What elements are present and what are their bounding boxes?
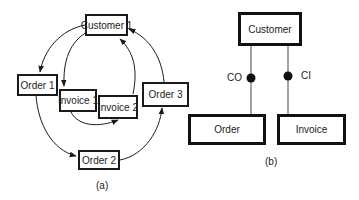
node-invoice-1: Invoice 1 xyxy=(59,89,97,112)
node-customer-1: Customer 1 xyxy=(85,14,128,36)
relation-label-co: CO xyxy=(227,72,242,83)
node-invoice: Invoice xyxy=(277,114,346,145)
edge-invoice2-customer1 xyxy=(120,39,135,94)
edge-customer1-invoice1 xyxy=(64,32,87,86)
node-order-1: Order 1 xyxy=(17,74,58,96)
caption-b: (b) xyxy=(265,156,277,167)
node-order: Order xyxy=(188,114,266,145)
node-order-2: Order 2 xyxy=(78,150,120,170)
edge-order3-customer1 xyxy=(129,29,164,82)
relation-dot-co xyxy=(247,74,256,83)
node-customer: Customer xyxy=(238,12,302,46)
edge-customer1-order1 xyxy=(40,25,85,72)
caption-a: (a) xyxy=(96,180,108,191)
node-invoice-2: Invoice 2 xyxy=(98,95,138,119)
relation-label-ci: CI xyxy=(301,70,311,81)
node-order-3: Order 3 xyxy=(142,82,189,107)
relation-dot-ci xyxy=(284,72,293,81)
